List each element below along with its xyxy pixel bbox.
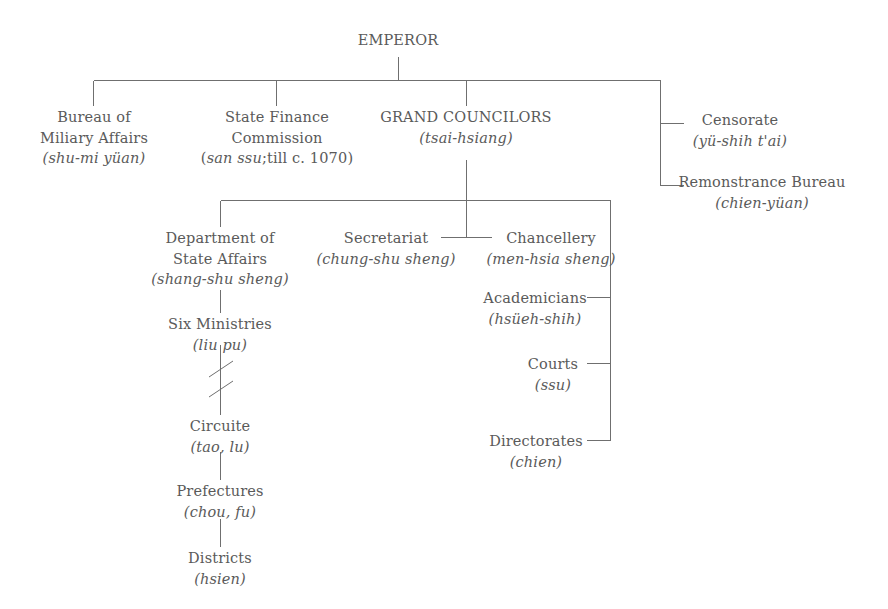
- node-state-finance-commission-romanization: (san ssu;till c. 1070): [201, 148, 353, 169]
- node-state-finance-commission-romanization-italic: san ssu: [207, 150, 262, 166]
- node-state-finance-commission-label-line1: State Finance: [201, 107, 353, 128]
- node-censorate: Censorate (yü-shih t'ai): [693, 110, 787, 151]
- node-directorates-romanization: (chien): [489, 452, 583, 473]
- node-emperor-label: EMPEROR: [358, 30, 439, 51]
- node-districts-romanization: (hsien): [188, 569, 252, 590]
- node-department-of-state-affairs-romanization: (shang-shu sheng): [151, 269, 289, 290]
- node-chancellery: Chancellery (men-hsia sheng): [487, 228, 616, 269]
- node-state-finance-commission: State Finance Commission (san ssu;till c…: [201, 107, 353, 169]
- node-academicians: Academicians (hsüeh-shih): [483, 288, 586, 329]
- node-six-ministries-romanization: (liu pu): [168, 335, 272, 356]
- node-department-of-state-affairs: Department of State Affairs (shang-shu s…: [151, 228, 289, 290]
- node-bureau-military-affairs-label-line1: Bureau of: [40, 107, 148, 128]
- node-districts: Districts (hsien): [188, 548, 252, 589]
- node-censorate-label: Censorate: [693, 110, 787, 131]
- node-courts-label: Courts: [528, 354, 578, 375]
- node-censorate-romanization: (yü-shih t'ai): [693, 131, 787, 152]
- node-circuite-label: Circuite: [190, 416, 250, 437]
- node-six-ministries-label: Six Ministries: [168, 314, 272, 335]
- node-courts-romanization: (ssu): [528, 375, 578, 396]
- node-prefectures-label: Prefectures: [176, 481, 263, 502]
- org-chart-diagram: EMPEROR Bureau of Miliary Affairs (shu-m…: [0, 0, 888, 609]
- node-prefectures-romanization: (chou, fu): [176, 502, 263, 523]
- node-courts: Courts (ssu): [528, 354, 578, 395]
- node-grand-councilors-label: GRAND COUNCILORS: [380, 107, 551, 128]
- node-department-of-state-affairs-label-line2: State Affairs: [151, 249, 289, 270]
- node-six-ministries: Six Ministries (liu pu): [168, 314, 272, 355]
- node-grand-councilors: GRAND COUNCILORS (tsai-hsiang): [380, 107, 551, 148]
- node-academicians-romanization: (hsüeh-shih): [483, 309, 586, 330]
- node-state-finance-commission-romanization-upright: ;till c. 1070: [262, 150, 347, 166]
- node-bureau-military-affairs: Bureau of Miliary Affairs (shu-mi yüan): [40, 107, 148, 169]
- node-remonstrance-bureau-romanization: (chien-yüan): [678, 193, 845, 214]
- node-state-finance-commission-label-line2: Commission: [201, 128, 353, 149]
- node-department-of-state-affairs-label-line1: Department of: [151, 228, 289, 249]
- node-secretariat-romanization: (chung-shu sheng): [317, 249, 456, 270]
- node-remonstrance-bureau: Remonstrance Bureau (chien-yüan): [678, 172, 845, 213]
- node-bureau-military-affairs-label-line2: Miliary Affairs: [40, 128, 148, 149]
- node-districts-label: Districts: [188, 548, 252, 569]
- node-grand-councilors-romanization: (tsai-hsiang): [380, 128, 551, 149]
- connector-lines: [0, 0, 888, 609]
- break-mark-lower: [209, 381, 233, 397]
- node-circuite: Circuite (tao, lu): [190, 416, 250, 457]
- node-directorates: Directorates (chien): [489, 431, 583, 472]
- node-secretariat: Secretariat (chung-shu sheng): [317, 228, 456, 269]
- node-circuite-romanization: (tao, lu): [190, 437, 250, 458]
- node-academicians-label: Academicians: [483, 288, 586, 309]
- node-chancellery-label: Chancellery: [487, 228, 616, 249]
- node-chancellery-romanization: (men-hsia sheng): [487, 249, 616, 270]
- node-secretariat-label: Secretariat: [317, 228, 456, 249]
- node-remonstrance-bureau-label: Remonstrance Bureau: [678, 172, 845, 193]
- node-prefectures: Prefectures (chou, fu): [176, 481, 263, 522]
- node-bureau-military-affairs-romanization: (shu-mi yüan): [40, 148, 148, 169]
- node-directorates-label: Directorates: [489, 431, 583, 452]
- break-mark-upper: [209, 361, 233, 377]
- node-emperor: EMPEROR: [358, 30, 439, 51]
